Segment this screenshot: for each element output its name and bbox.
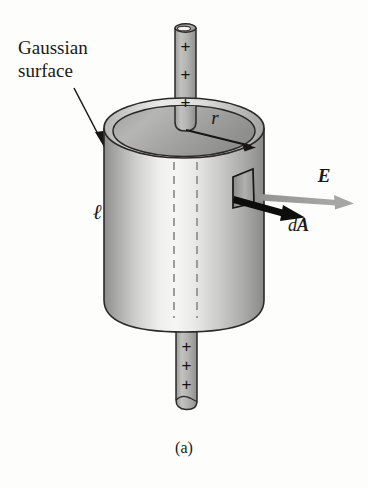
gauss-law-cylinder-diagram: + + + + + + (0, 0, 368, 488)
gaussian-surface-label-line1: Gaussian (18, 37, 88, 58)
charge-plus-top-2: + (181, 65, 191, 84)
charge-plus-top-3-overlay: + (181, 93, 191, 112)
charge-plus-bottom-1: + (182, 337, 192, 356)
charge-plus-bottom-2: + (182, 356, 192, 375)
area-vector-label-A: A (296, 215, 309, 235)
charge-plus-bottom-3: + (182, 375, 192, 394)
figure-root: + + + + + + (0, 0, 368, 488)
length-label: ℓ (93, 200, 102, 224)
radius-label: r (211, 107, 219, 128)
charged-rod-bottom: + + + (176, 330, 197, 410)
area-vector-label: d A (288, 215, 309, 235)
charge-plus-top-1: + (181, 37, 191, 56)
gaussian-surface-label-line2: surface (18, 60, 73, 81)
electric-field-label: E (317, 165, 331, 186)
figure-caption: (a) (175, 439, 193, 457)
gaussian-cylinder (104, 98, 264, 332)
rod-top-cap-hole (178, 26, 191, 31)
